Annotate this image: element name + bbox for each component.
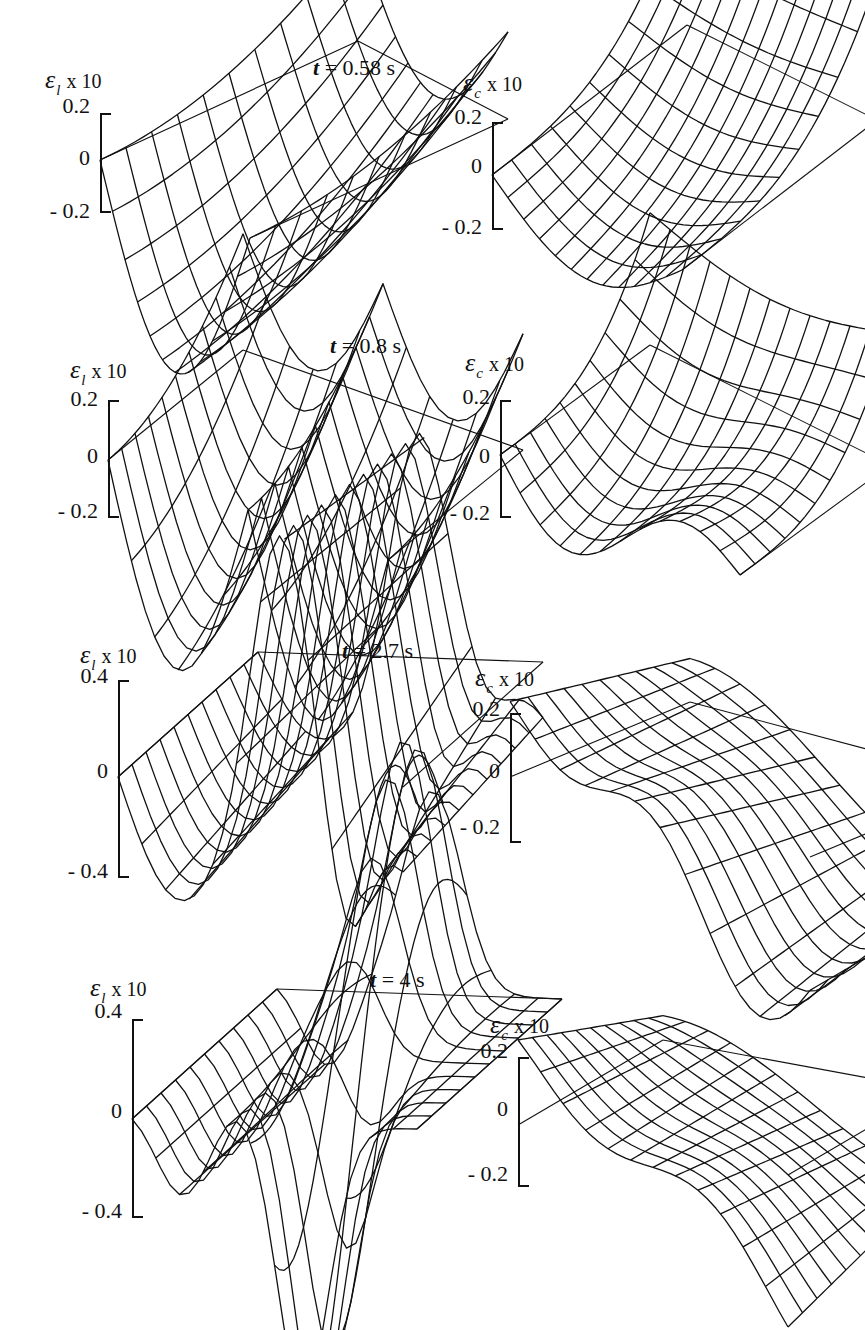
mesh-line	[649, 1018, 865, 1198]
surface-wireframe	[0, 0, 865, 1330]
mesh-line	[788, 1184, 865, 1327]
mesh-line	[533, 1038, 803, 1313]
mesh-line	[663, 1016, 865, 1184]
